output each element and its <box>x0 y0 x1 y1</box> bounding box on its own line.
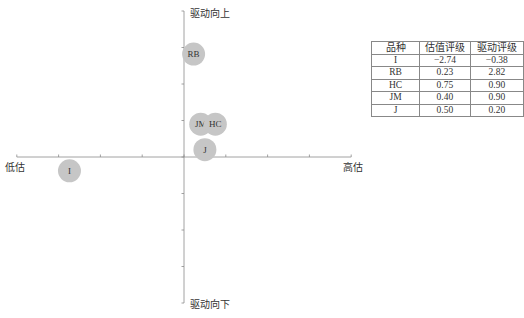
bubble-j: J <box>193 138 216 161</box>
cell-valuation: 0.40 <box>420 92 470 105</box>
bubble-hc: HC <box>204 113 227 136</box>
bubble-rb: RB <box>182 43 205 66</box>
table-row: JM 0.40 0.90 <box>372 92 524 105</box>
cell-driver: 2.82 <box>470 67 523 80</box>
header-driver-rating: 驱动评级 <box>470 42 523 55</box>
bubble-label: HC <box>209 119 222 129</box>
header-variety: 品种 <box>372 42 420 55</box>
cell-variety: RB <box>372 67 420 80</box>
table-row: I −2.74 −0.38 <box>372 54 524 67</box>
y-axis-label-bottom: 驱动向下 <box>190 296 230 311</box>
x-axis-label-right: 高估 <box>343 159 363 174</box>
table-row: RB 0.23 2.82 <box>372 67 524 80</box>
table-row: HC 0.75 0.90 <box>372 79 524 92</box>
bubble-label: RB <box>188 49 200 59</box>
y-axis-label-top: 驱动向上 <box>190 5 230 20</box>
cell-driver: −0.38 <box>470 54 523 67</box>
cell-driver: 0.20 <box>470 104 523 117</box>
cell-driver: 0.90 <box>470 79 523 92</box>
cell-valuation: 0.75 <box>420 79 470 92</box>
rating-table: 品种 估值评级 驱动评级 I −2.74 −0.38 RB 0.23 2.82 … <box>371 41 524 117</box>
cell-variety: HC <box>372 79 420 92</box>
cell-valuation: 0.23 <box>420 67 470 80</box>
bubble-label: I <box>68 166 71 176</box>
x-axis-label-left: 低估 <box>5 159 25 174</box>
cell-valuation: 0.50 <box>420 104 470 117</box>
cell-valuation: −2.74 <box>420 54 470 67</box>
table-row: J 0.50 0.20 <box>372 104 524 117</box>
bubble-label: J <box>203 145 207 155</box>
cell-variety: I <box>372 54 420 67</box>
bubbles: IRBJJMHC <box>58 43 227 183</box>
bubble-i: I <box>58 159 81 182</box>
cell-variety: JM <box>372 92 420 105</box>
table-header-row: 品种 估值评级 驱动评级 <box>372 42 524 55</box>
cell-variety: J <box>372 104 420 117</box>
cell-driver: 0.90 <box>470 92 523 105</box>
header-valuation-rating: 估值评级 <box>420 42 470 55</box>
